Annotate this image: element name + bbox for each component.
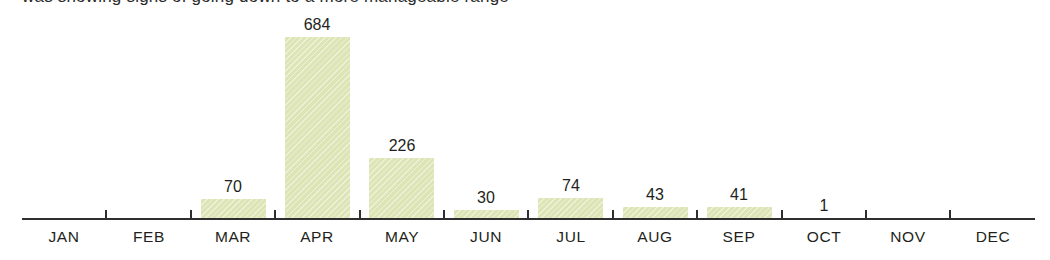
x-axis-tick — [190, 210, 192, 219]
category-label-jun: JUN — [444, 228, 528, 246]
x-axis-tick — [105, 210, 107, 219]
bar-value-jun: 30 — [446, 189, 526, 207]
x-axis-tick — [527, 210, 529, 219]
category-label-sep: SEP — [697, 228, 781, 246]
category-label-jan: JAN — [22, 228, 106, 246]
bar-value-may: 226 — [362, 137, 442, 155]
x-axis-tick — [274, 210, 276, 219]
x-axis-tick — [359, 210, 361, 219]
x-axis-tick — [443, 210, 445, 219]
bar-value-sep: 41 — [699, 186, 779, 204]
bar-value-aug: 43 — [615, 186, 695, 204]
x-axis-tick — [865, 210, 867, 219]
bar-apr — [285, 37, 350, 218]
bar-value-oct: 1 — [784, 197, 864, 215]
category-label-apr: APR — [275, 228, 359, 246]
category-label-oct: OCT — [782, 228, 866, 246]
bar-sep — [707, 207, 772, 218]
bar-jul — [538, 198, 603, 218]
bar-value-jul: 74 — [531, 177, 611, 195]
bar-jun — [454, 210, 519, 218]
category-label-feb: FEB — [107, 228, 191, 246]
category-label-jul: JUL — [529, 228, 613, 246]
bar-mar — [201, 199, 266, 218]
bar-chart: 70684226307443411 JANFEBMARAPRMAYJUNJULA… — [0, 0, 1050, 260]
bar-value-apr: 684 — [277, 16, 357, 34]
bar-may — [369, 158, 434, 218]
category-label-dec: DEC — [951, 228, 1035, 246]
category-label-aug: AUG — [613, 228, 697, 246]
x-axis-tick — [949, 210, 951, 219]
bar-value-mar: 70 — [193, 178, 273, 196]
bar-aug — [623, 207, 688, 218]
category-label-nov: NOV — [866, 228, 950, 246]
x-axis-tick — [781, 210, 783, 219]
category-label-mar: MAR — [191, 228, 275, 246]
x-axis-tick — [696, 210, 698, 219]
category-label-may: MAY — [360, 228, 444, 246]
x-axis-tick — [612, 210, 614, 219]
